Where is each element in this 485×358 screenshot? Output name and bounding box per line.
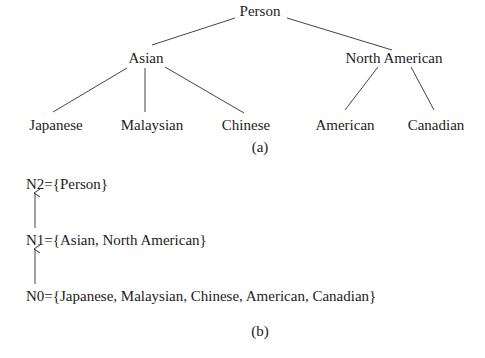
hierarchy-diagram: Person Asian North American Japanese Mal… (0, 0, 485, 358)
level-n2: N2={Person} (26, 176, 108, 192)
edge-asian-chinese (165, 67, 244, 113)
level-n0: N0={Japanese, Malaysian, Chinese, Americ… (26, 288, 376, 304)
edge-north-american-canadian (411, 67, 434, 110)
edge-asian-japanese (53, 68, 127, 112)
edge-person-north-american (287, 18, 392, 50)
node-asian: Asian (129, 50, 164, 66)
node-north-american: North American (345, 50, 443, 66)
node-canadian: Canadian (408, 117, 465, 133)
node-malaysian: Malaysian (121, 117, 184, 133)
node-american: American (315, 117, 375, 133)
edge-person-asian (152, 18, 235, 45)
level-n1: N1={Asian, North American} (26, 232, 207, 248)
node-person: Person (240, 3, 281, 19)
edge-north-american-american (345, 67, 378, 110)
node-chinese: Chinese (222, 117, 271, 133)
caption-b: (b) (251, 323, 269, 340)
caption-a: (a) (252, 139, 269, 156)
node-japanese: Japanese (29, 117, 83, 133)
